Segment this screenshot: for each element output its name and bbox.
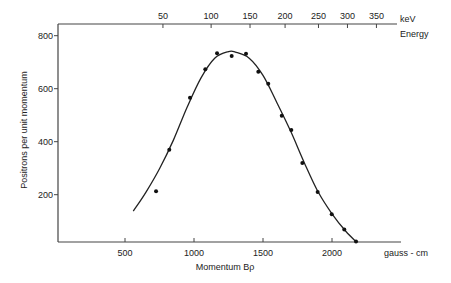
- data-point: [215, 51, 219, 55]
- top-axis-label: Energy: [400, 29, 429, 39]
- top-tick-label: 250: [311, 11, 326, 21]
- x-axis-label: Momentum Bρ: [196, 262, 255, 272]
- top-tick-label: 150: [243, 11, 258, 21]
- fit-curve-path: [133, 51, 357, 242]
- tick-marks: 5001000150020002004006008005010015020025…: [38, 11, 384, 258]
- data-point: [289, 128, 293, 132]
- y-tick-label: 600: [38, 84, 53, 94]
- data-point: [300, 161, 304, 165]
- top-tick-label: 300: [340, 11, 355, 21]
- data-point: [154, 189, 158, 193]
- x-tick-label: 1000: [184, 248, 204, 258]
- y-tick-label: 800: [38, 31, 53, 41]
- chart: 5001000150020002004006008005010015020025…: [0, 0, 451, 283]
- data-point: [188, 96, 192, 100]
- top-tick-label: 200: [278, 11, 293, 21]
- data-point: [244, 52, 248, 56]
- y-axis-label: Positrons per unit momentum: [19, 71, 29, 189]
- data-point: [167, 148, 171, 152]
- x-tick-label: 500: [117, 248, 132, 258]
- data-point: [203, 67, 207, 71]
- data-point: [280, 114, 284, 118]
- x-tick-label: 2000: [322, 248, 342, 258]
- top-axis-unit: keV: [400, 14, 416, 24]
- data-point: [342, 227, 346, 231]
- y-tick-label: 400: [38, 137, 53, 147]
- data-point: [330, 212, 334, 216]
- data-point: [316, 190, 320, 194]
- top-tick-label: 100: [204, 11, 219, 21]
- axes: [58, 24, 401, 242]
- data-points: [154, 51, 358, 243]
- fitted-curve: [133, 51, 357, 242]
- top-tick-label: 350: [369, 11, 384, 21]
- x-axis-unit: gauss - cm: [384, 248, 428, 258]
- data-point: [266, 82, 270, 86]
- data-point: [230, 54, 234, 58]
- top-tick-label: 50: [158, 11, 168, 21]
- y-tick-label: 200: [38, 190, 53, 200]
- x-tick-label: 1500: [253, 248, 273, 258]
- data-point: [354, 240, 358, 244]
- data-point: [256, 70, 260, 74]
